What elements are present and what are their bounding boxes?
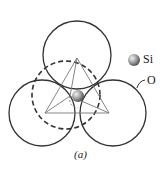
oxygen-atom-top (43, 21, 111, 89)
legend-si-label: Si (143, 52, 153, 67)
silicon-legend-icon (128, 54, 140, 66)
oxygen-pointer-icon (137, 80, 145, 88)
figure-caption: (a) (74, 148, 87, 160)
silicon-atom (72, 90, 84, 102)
legend-o-label: O (147, 73, 156, 88)
oxygen-atom-back-dashed (32, 61, 100, 129)
silica-tetrahedron-diagram (0, 0, 168, 169)
